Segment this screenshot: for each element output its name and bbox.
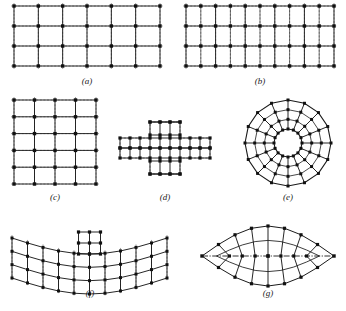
- mesh-node: [303, 64, 306, 67]
- mesh-node: [310, 165, 313, 168]
- panel-d-caption: (d): [160, 192, 171, 202]
- mesh-node: [88, 230, 91, 233]
- mesh-node: [150, 268, 153, 271]
- mesh-node: [199, 4, 202, 7]
- mesh-node: [148, 159, 151, 162]
- mesh-node: [330, 142, 333, 145]
- mesh-node: [42, 246, 45, 249]
- mesh-node: [266, 224, 269, 227]
- mesh-node: [134, 44, 137, 47]
- mesh-node: [258, 4, 261, 7]
- mesh-node: [73, 278, 76, 281]
- mesh-node: [138, 156, 141, 159]
- mesh-node: [199, 64, 202, 67]
- mesh-node: [73, 252, 76, 255]
- mesh-node: [228, 254, 231, 257]
- mesh-node: [77, 230, 80, 233]
- mesh-node: [273, 44, 276, 47]
- mesh-line: [298, 153, 319, 174]
- mesh-node: [94, 182, 97, 185]
- mesh-line: [301, 148, 328, 159]
- mesh-node: [158, 146, 161, 149]
- mesh-node: [273, 4, 276, 7]
- mesh-node: [277, 151, 280, 154]
- mesh-node: [178, 120, 181, 123]
- mesh-node: [74, 182, 77, 185]
- mesh-node: [303, 158, 306, 161]
- panel-a-rectangular-plate-coarse-mesh: (a): [11, 3, 163, 86]
- mesh-node: [317, 129, 320, 132]
- mesh-node: [134, 64, 137, 67]
- mesh-node: [168, 146, 171, 149]
- mesh-node: [85, 24, 88, 27]
- mesh-node: [208, 146, 211, 149]
- mesh-node: [119, 249, 122, 252]
- mesh-node: [26, 255, 29, 258]
- mesh-node: [214, 4, 217, 7]
- mesh-node: [332, 44, 335, 47]
- mesh-node: [104, 252, 107, 255]
- panel-g-caption: (g): [263, 288, 274, 298]
- mesh-node: [26, 281, 29, 284]
- mesh-node: [158, 44, 161, 47]
- mesh-node: [178, 133, 181, 136]
- mesh-node: [198, 136, 201, 139]
- mesh-line: [272, 103, 283, 130]
- mesh-node: [57, 249, 60, 252]
- mesh-node: [188, 156, 191, 159]
- panel-f-curved-shell-with-stiffener-mesh: (f): [11, 230, 169, 298]
- mesh-node: [253, 142, 256, 145]
- mesh-node: [88, 252, 91, 255]
- mesh-node: [74, 149, 77, 152]
- mesh-node: [303, 102, 306, 105]
- mesh-node: [37, 64, 40, 67]
- mesh-node: [118, 136, 121, 139]
- mesh-node: [199, 24, 202, 27]
- mesh-node: [168, 133, 171, 136]
- mesh-node: [178, 159, 181, 162]
- mesh-node: [104, 292, 107, 295]
- mesh-node: [135, 273, 138, 276]
- mesh-node: [303, 125, 306, 128]
- mesh-node: [184, 44, 187, 47]
- mesh-node: [288, 4, 291, 7]
- mesh-node: [61, 64, 64, 67]
- mesh-node: [263, 118, 266, 121]
- mesh-node: [303, 181, 306, 184]
- mesh-node: [158, 24, 161, 27]
- mesh-node: [110, 24, 113, 27]
- mesh-node: [265, 151, 268, 154]
- mesh-node: [288, 24, 291, 27]
- mesh-node: [88, 279, 91, 282]
- mesh-node: [198, 146, 201, 149]
- mesh-node: [150, 255, 153, 258]
- mesh-node: [158, 136, 161, 139]
- mesh-node: [265, 132, 268, 135]
- mesh-node: [274, 136, 277, 139]
- mesh-node: [104, 265, 107, 268]
- mesh-node: [273, 142, 276, 145]
- mesh-node: [12, 115, 15, 118]
- mesh-node: [73, 292, 76, 295]
- mesh-node: [296, 151, 299, 154]
- mesh-node: [128, 136, 131, 139]
- mesh-node: [317, 172, 320, 175]
- mesh-node: [332, 24, 335, 27]
- mesh-node: [148, 133, 151, 136]
- mesh-node: [214, 24, 217, 27]
- mesh-node: [77, 241, 80, 244]
- mesh-node: [270, 158, 273, 161]
- mesh-node: [33, 149, 36, 152]
- mesh-node: [244, 142, 247, 145]
- mesh-node: [318, 64, 321, 67]
- mesh-node: [53, 166, 56, 169]
- mesh-node: [138, 136, 141, 139]
- mesh-node: [326, 125, 329, 128]
- mesh-node: [292, 254, 295, 257]
- mesh-node: [326, 158, 329, 161]
- mesh-node: [229, 4, 232, 7]
- mesh-node: [74, 115, 77, 118]
- mesh-node: [318, 44, 321, 47]
- mesh-line: [258, 153, 279, 174]
- mesh-node: [256, 154, 259, 157]
